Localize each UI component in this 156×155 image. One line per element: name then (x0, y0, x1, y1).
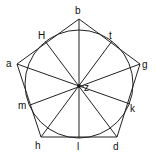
label-k: k (130, 103, 136, 114)
label-m: m (18, 100, 26, 111)
label-a: a (6, 58, 12, 69)
label-H: H (38, 30, 45, 41)
pentagon-diagram: b g d h a H t k l m z (0, 0, 156, 155)
line-a-k (17, 64, 130, 104)
label-b: b (75, 5, 81, 16)
line-d-H (45, 41, 117, 137)
label-g: g (142, 59, 148, 70)
line-h-t (41, 41, 112, 137)
label-t: t (109, 30, 112, 41)
label-d: d (113, 141, 119, 152)
label-h: h (35, 140, 41, 151)
label-z: z (84, 82, 89, 93)
label-l: l (77, 141, 79, 152)
